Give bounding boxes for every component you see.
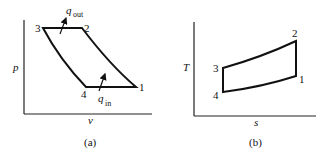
point-3-label: 3 — [35, 22, 41, 34]
q-in-subscript: in — [105, 99, 111, 108]
point-4-label: 4 — [213, 89, 219, 101]
q-in-label: q — [98, 92, 104, 104]
point-2-label: 2 — [292, 27, 298, 39]
y-axis-label: T — [183, 61, 190, 73]
caption-a: (a) — [84, 136, 97, 149]
point-2-label: 2 — [84, 22, 90, 34]
q-out-label: q — [66, 4, 72, 16]
point-1-label: 1 — [299, 73, 305, 85]
caption-b: (b) — [249, 136, 262, 149]
cycle-path — [223, 41, 296, 92]
y-axis-label: p — [12, 61, 19, 73]
x-axis-label: s — [254, 116, 258, 128]
point-1-label: 1 — [139, 81, 145, 93]
x-axis-label: v — [88, 114, 93, 126]
q-in-arrow — [99, 74, 105, 91]
ts-diagram: 3 2 1 4 T s (b) — [183, 22, 316, 149]
cycle-path — [43, 28, 136, 87]
cycle-diagrams: 3 2 1 4 q out q in p v (a) 3 2 1 4 T s (… — [0, 0, 335, 156]
point-3-label: 3 — [213, 62, 219, 74]
q-out-subscript: out — [73, 10, 84, 19]
point-4-label: 4 — [81, 88, 87, 100]
pv-diagram: 3 2 1 4 q out q in p v (a) — [12, 4, 152, 149]
q-out-arrow — [60, 18, 66, 34]
